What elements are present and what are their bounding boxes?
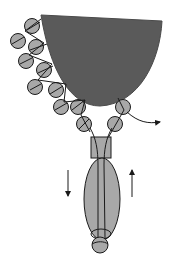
- bead: [108, 117, 123, 132]
- long-bead: [84, 158, 120, 240]
- diagram-svg: [0, 0, 178, 262]
- end-bead: [92, 237, 108, 253]
- beading-diagram: [0, 0, 178, 262]
- clasp-bar: [91, 137, 111, 158]
- exit-arrow: [127, 112, 160, 123]
